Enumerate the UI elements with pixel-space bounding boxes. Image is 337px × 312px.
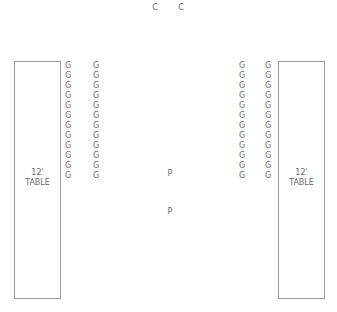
guest-seat: G bbox=[265, 152, 271, 160]
guest-seat: G bbox=[265, 82, 271, 90]
guest-seat: G bbox=[93, 112, 99, 120]
guest-seat: G bbox=[239, 172, 245, 180]
guest-seat: G bbox=[65, 112, 71, 120]
guest-seat: G bbox=[239, 72, 245, 80]
guest-seat: G bbox=[239, 92, 245, 100]
guest-seat: G bbox=[93, 62, 99, 70]
guest-seat: G bbox=[239, 142, 245, 150]
guest-seat: G bbox=[265, 92, 271, 100]
guest-seat: G bbox=[65, 82, 71, 90]
table-size-label: 12' bbox=[15, 168, 60, 177]
guest-seat: G bbox=[65, 72, 71, 80]
table-name-label: TABLE bbox=[279, 178, 324, 187]
guest-seat: G bbox=[65, 172, 71, 180]
chair-marker: C bbox=[178, 4, 184, 12]
guest-seat: G bbox=[265, 132, 271, 140]
guest-seat: G bbox=[239, 82, 245, 90]
guest-seat: G bbox=[93, 152, 99, 160]
guest-seat: G bbox=[65, 132, 71, 140]
guest-seat: G bbox=[239, 132, 245, 140]
guest-seat: G bbox=[239, 152, 245, 160]
guest-seat: G bbox=[65, 92, 71, 100]
guest-seat: G bbox=[93, 82, 99, 90]
guest-seat: G bbox=[65, 142, 71, 150]
guest-seat: G bbox=[265, 62, 271, 70]
guest-seat: G bbox=[93, 122, 99, 130]
guest-seat: G bbox=[239, 122, 245, 130]
table-left: 12'TABLE bbox=[14, 61, 61, 299]
podium-marker: P bbox=[168, 208, 173, 216]
guest-seat: G bbox=[93, 132, 99, 140]
guest-seat: G bbox=[239, 162, 245, 170]
guest-seat: G bbox=[239, 112, 245, 120]
guest-seat: G bbox=[93, 72, 99, 80]
guest-seat: G bbox=[265, 102, 271, 110]
guest-seat: G bbox=[265, 142, 271, 150]
guest-seat: G bbox=[93, 102, 99, 110]
table-right: 12'TABLE bbox=[278, 61, 325, 299]
guest-seat: G bbox=[265, 162, 271, 170]
table-name-label: TABLE bbox=[15, 178, 60, 187]
guest-seat: G bbox=[65, 102, 71, 110]
guest-seat: G bbox=[65, 122, 71, 130]
guest-seat: G bbox=[239, 62, 245, 70]
guest-seat: G bbox=[239, 102, 245, 110]
guest-seat: G bbox=[265, 112, 271, 120]
guest-seat: G bbox=[265, 172, 271, 180]
guest-seat: G bbox=[93, 142, 99, 150]
podium-marker: P bbox=[168, 170, 173, 178]
guest-seat: G bbox=[93, 92, 99, 100]
guest-seat: G bbox=[93, 162, 99, 170]
guest-seat: G bbox=[93, 172, 99, 180]
guest-seat: G bbox=[265, 122, 271, 130]
chair-marker: C bbox=[152, 4, 158, 12]
table-size-label: 12' bbox=[279, 168, 324, 177]
guest-seat: G bbox=[265, 72, 271, 80]
guest-seat: G bbox=[65, 162, 71, 170]
guest-seat: G bbox=[65, 152, 71, 160]
guest-seat: G bbox=[65, 62, 71, 70]
